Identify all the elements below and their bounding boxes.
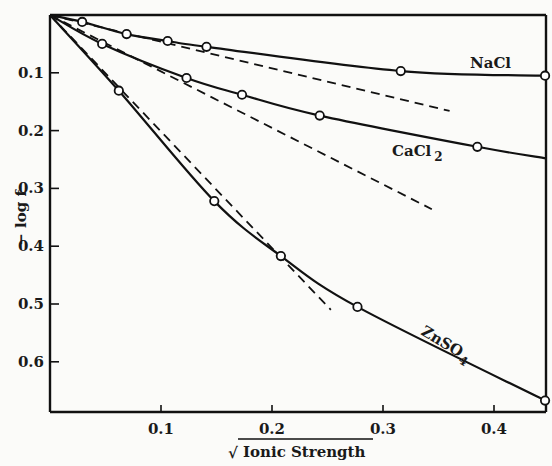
x-axis-title: √ Ionic Strength xyxy=(228,439,373,462)
data-point-nacl xyxy=(541,71,549,79)
data-point-nacl xyxy=(202,43,210,51)
y-tick-label: 0.5 xyxy=(18,295,44,313)
series-label-cacl2-main: CaCl xyxy=(392,142,432,160)
chart: 0.10.20.30.4 0.10.20.30.40.50.6 NaCl CaC… xyxy=(0,0,552,466)
data-point-znso4 xyxy=(541,396,549,404)
data-point-znso4 xyxy=(210,197,218,205)
data-point-znso4 xyxy=(277,252,285,260)
limiting-line-cacl2-limiting xyxy=(50,15,432,209)
y-tick-label: 0.2 xyxy=(18,122,44,140)
data-point-nacl xyxy=(397,67,405,75)
data-point-cacl2 xyxy=(316,111,324,119)
limiting-line-znso4-limiting xyxy=(50,15,331,310)
x-axis-title-radical: √ xyxy=(228,444,238,462)
x-tick-label: 0.3 xyxy=(370,420,396,438)
data-point-cacl2 xyxy=(238,91,246,99)
data-point-cacl2 xyxy=(182,74,190,82)
curve-znso4 xyxy=(50,15,545,401)
x-tick-label: 0.1 xyxy=(148,420,174,438)
x-tick-label: 0.4 xyxy=(481,420,507,438)
data-point-znso4 xyxy=(115,87,123,95)
x-tick-label: 0.2 xyxy=(259,420,285,438)
data-point-nacl xyxy=(163,37,171,45)
y-tick-label: 0.6 xyxy=(18,353,44,371)
data-point-cacl2 xyxy=(473,143,481,151)
series-label-nacl: NaCl xyxy=(470,54,511,72)
series-label-znso4-main: ZnSO xyxy=(418,322,466,361)
data-point-cacl2 xyxy=(98,40,106,48)
data-curves xyxy=(50,15,546,401)
series-label-znso4: ZnSO4 xyxy=(416,322,475,369)
data-point-znso4 xyxy=(353,303,361,311)
data-point-nacl xyxy=(122,30,130,38)
series-label-cacl2: CaCl2 xyxy=(392,142,443,164)
series-label-cacl2-sub: 2 xyxy=(434,150,442,164)
x-axis-title-text: Ionic Strength xyxy=(243,443,366,461)
y-axis-title: − log f xyxy=(12,189,30,246)
limiting-law-lines xyxy=(50,15,450,310)
y-tick-label: 0.1 xyxy=(18,64,44,82)
data-point-nacl xyxy=(78,18,86,26)
x-axis-ticks: 0.10.20.30.4 xyxy=(148,405,507,438)
